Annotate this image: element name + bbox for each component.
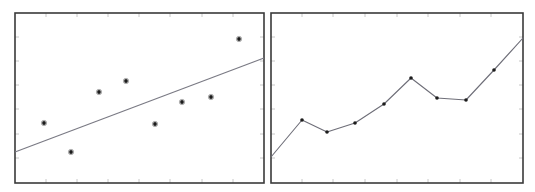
left-panel-tick-marks [15, 13, 264, 183]
scatter-point [153, 122, 157, 126]
scatter-point [42, 121, 46, 125]
right-panel-series-line [271, 38, 523, 157]
left-panel-scatter[interactable] [0, 0, 268, 192]
right-panel-data-points [300, 68, 496, 134]
left-panel-data-points [41, 36, 241, 154]
left-panel-svg [0, 0, 268, 192]
line-point-marker [435, 96, 439, 100]
line-point-marker [325, 130, 329, 134]
scatter-point [237, 37, 241, 41]
scatter-point [97, 90, 101, 94]
line-point-marker [382, 102, 386, 106]
line-point-marker [409, 76, 413, 80]
right-panel-axes-frame [271, 13, 523, 183]
scatter-point [209, 95, 213, 99]
line-point-marker [353, 121, 357, 125]
line-point-marker [492, 68, 496, 72]
left-panel-trend-line [15, 58, 264, 152]
right-panel-svg [268, 0, 535, 192]
line-point-marker [464, 98, 468, 102]
right-panel-tick-marks [271, 13, 523, 183]
scatter-point [69, 150, 73, 154]
scatter-point [180, 100, 184, 104]
line-point-marker [300, 118, 304, 122]
scatter-point [124, 79, 128, 83]
right-panel-line-chart[interactable] [268, 0, 535, 192]
left-panel-axes-frame [15, 13, 264, 183]
figure-canvas [0, 0, 535, 192]
